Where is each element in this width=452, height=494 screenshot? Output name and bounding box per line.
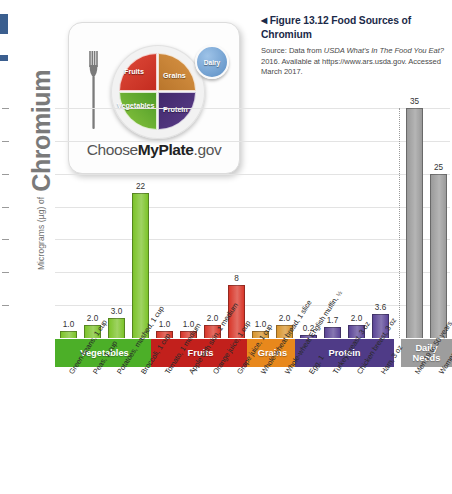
axis-tick xyxy=(2,272,9,273)
bar xyxy=(430,174,447,338)
bar xyxy=(324,327,341,338)
caption-title: ◀ Figure 13.12 Food Sources of Chromium xyxy=(261,14,451,42)
bar xyxy=(60,331,77,338)
bar-value-label: 3.6 xyxy=(368,303,393,312)
gridline xyxy=(55,239,450,240)
gridline xyxy=(55,174,450,175)
y-axis-nutrient-label: Chromium xyxy=(27,70,56,192)
bar xyxy=(132,193,149,338)
axis-tick xyxy=(2,174,9,175)
bar-value-label: 3.0 xyxy=(104,307,129,316)
caption-source: Source: Data from USDA What's In The Foo… xyxy=(261,46,451,78)
plate-label-dairy: Dairy xyxy=(204,59,221,66)
caption-arrow-icon: ◀ xyxy=(261,16,267,25)
source-rest: 2016. Available at https://www.ars.usda.… xyxy=(261,57,441,77)
bar-value-label: 35 xyxy=(402,97,427,106)
blue-accent-mark-bottom xyxy=(0,55,8,61)
plate-label-grains: Grains xyxy=(163,71,186,80)
gridline xyxy=(55,141,450,142)
x-axis-labels: Green beans, 1 cupPeas, 1 cupPotatoes, m… xyxy=(0,367,452,494)
gridline xyxy=(55,207,450,208)
bar-value-label: 25 xyxy=(426,163,451,172)
axis-tick xyxy=(2,207,9,208)
caption-figure-number: Figure 13.12 xyxy=(270,15,329,26)
gridline xyxy=(55,272,450,273)
axis-tick xyxy=(2,239,9,240)
axis-tick xyxy=(2,305,9,306)
figure-caption: ◀ Figure 13.12 Food Sources of Chromium … xyxy=(261,14,451,78)
gridline xyxy=(55,108,450,109)
bar-value-label: 8 xyxy=(224,274,249,283)
chart-plot-area: 1.02.03.0221.01.02.081.02.00.21.72.03.63… xyxy=(55,108,450,338)
plate-label-fruits: Fruits xyxy=(124,67,144,76)
axis-tick xyxy=(2,141,9,142)
source-italic: USDA What's In The Food You Eat? xyxy=(324,46,444,55)
axis-tick xyxy=(2,108,9,109)
bar xyxy=(406,108,423,338)
daily-needs-divider xyxy=(399,108,400,338)
source-prefix: Source: Data from xyxy=(261,46,324,55)
bar-value-label: 22 xyxy=(128,182,153,191)
bar xyxy=(108,318,125,338)
plate-circle-dairy: Dairy xyxy=(195,45,229,79)
blue-accent-mark-top xyxy=(0,14,8,34)
figure-page: Micrograms (µg) of Chromium ◀ Figure 13.… xyxy=(0,0,452,494)
y-axis-units-label: Micrograms (µg) of xyxy=(36,197,46,270)
bar-value-label: 1.0 xyxy=(56,320,81,329)
